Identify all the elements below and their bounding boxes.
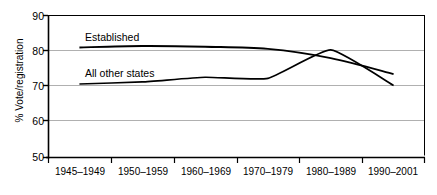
chart-container: % Vote/registration 90 80 70 60 50 (0, 0, 437, 195)
x-tick-label-0: 1945–1949 (45, 166, 115, 177)
x-tick-label-1: 1950–1959 (108, 166, 178, 177)
series-annotation-established: Established (85, 31, 139, 43)
series-annotation-all-other-states: All other states (85, 67, 154, 79)
x-tick-label-4: 1980–1989 (296, 166, 366, 177)
x-tick-label-2: 1960–1969 (171, 166, 241, 177)
gridlines (48, 51, 425, 121)
x-axis-ticks (49, 158, 425, 164)
x-tick-label-3: 1970–1979 (233, 166, 303, 177)
y-axis-ticks (43, 16, 48, 158)
x-tick-label-5: 1990–2001 (358, 166, 428, 177)
